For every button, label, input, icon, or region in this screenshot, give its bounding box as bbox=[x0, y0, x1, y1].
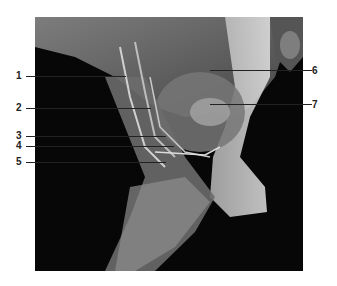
leader-line-7 bbox=[210, 104, 312, 105]
leader-line-1 bbox=[26, 76, 126, 77]
label-4: 4 bbox=[16, 141, 22, 151]
label-1: 1 bbox=[16, 71, 22, 81]
label-5: 5 bbox=[16, 157, 22, 167]
leader-line-4 bbox=[26, 146, 174, 147]
dissection-illustration bbox=[35, 17, 303, 271]
label-7: 7 bbox=[312, 100, 318, 110]
leader-line-2 bbox=[26, 108, 151, 109]
label-6: 6 bbox=[312, 66, 318, 76]
label-2: 2 bbox=[16, 103, 22, 113]
anatomical-photo bbox=[35, 17, 303, 271]
leader-line-5 bbox=[26, 162, 166, 163]
leader-line-6 bbox=[210, 70, 312, 71]
leader-line-3 bbox=[26, 136, 166, 137]
